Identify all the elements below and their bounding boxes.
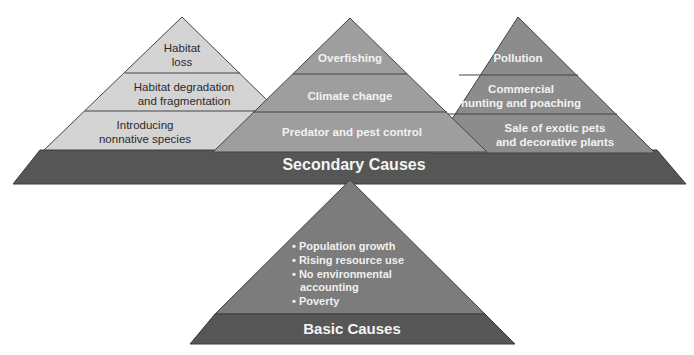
basic-cause-item: • Rising resource use <box>292 254 410 267</box>
secondary-causes-label: Secondary Causes <box>282 156 425 174</box>
habitat-degradation-label: Habitat degradationand fragmentation <box>134 80 234 108</box>
basic-causes-list: • Population growth • Rising resource us… <box>292 240 410 308</box>
climate-change-label: Climate change <box>308 89 393 103</box>
predator-pest-control-label: Predator and pest control <box>282 125 422 139</box>
exotic-pets-label: Sale of exotic petsand decorative plants <box>496 121 614 149</box>
basic-cause-item: • No environmental accounting <box>292 268 410 294</box>
nonnative-species-label: Introducingnonnative species <box>99 118 191 146</box>
habitat-loss-label: Habitatloss <box>164 41 200 69</box>
basic-cause-item: • Poverty <box>292 295 410 308</box>
pollution-label: Pollution <box>493 51 542 65</box>
commercial-hunting-label: Commercialhunting and poaching <box>461 82 581 110</box>
basic-cause-item: • Population growth <box>292 240 410 253</box>
overfishing-label: Overfishing <box>318 51 382 65</box>
basic-causes-label: Basic Causes <box>303 320 401 337</box>
